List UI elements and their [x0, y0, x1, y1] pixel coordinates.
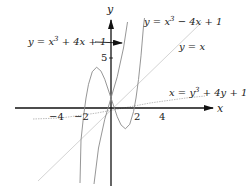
x-axis-label: x: [217, 103, 223, 114]
graph-figure: y x −4 −2 2 4 5 y = x3 + 4x + 1 y = x3 −…: [0, 0, 250, 196]
graph-canvas: [0, 0, 250, 196]
label-cubic-plus-rhs: + 4x + 1: [59, 36, 107, 47]
label-inverse-rhs: + 4y + 1: [200, 87, 248, 98]
label-inverse-lhs: x = y: [169, 87, 195, 98]
label-cubic-plus: y = x3 + 4x + 1: [28, 37, 106, 47]
label-cubic-minus: y = x3 − 4x + 1: [144, 17, 222, 27]
y-tick-label-5: 5: [101, 53, 107, 63]
label-cubic-minus-lhs: y = x: [144, 16, 170, 27]
label-identity: y = x: [179, 42, 205, 52]
x-tick-label-4: 4: [159, 112, 165, 122]
x-tick-label-2: 2: [134, 112, 140, 122]
x-tick-label-neg4: −4: [49, 112, 64, 122]
label-cubic-minus-rhs: − 4x + 1: [175, 16, 223, 27]
label-cubic-plus-lhs: y = x: [28, 36, 54, 47]
label-inverse: x = y3 + 4y + 1: [169, 88, 247, 98]
y-axis-label: y: [107, 4, 113, 15]
x-tick-label-neg2: −2: [74, 112, 89, 122]
